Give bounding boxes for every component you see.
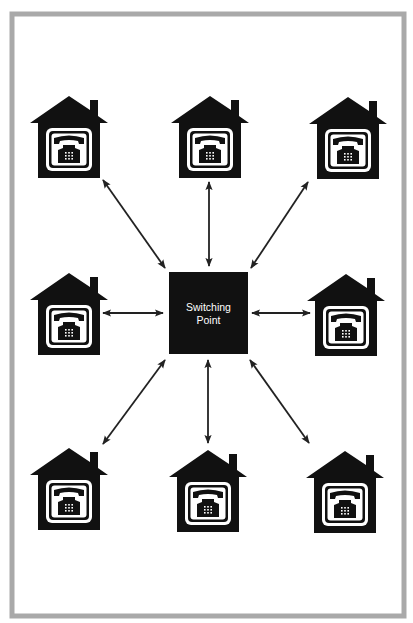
star-network-diagram: Switching Point [0,0,413,623]
switching-point-label-line1: Switching [186,301,231,313]
switching-point-hub: Switching Point [169,272,248,354]
switching-point-label-line2: Point [197,314,221,326]
switching-point-box [169,272,248,354]
